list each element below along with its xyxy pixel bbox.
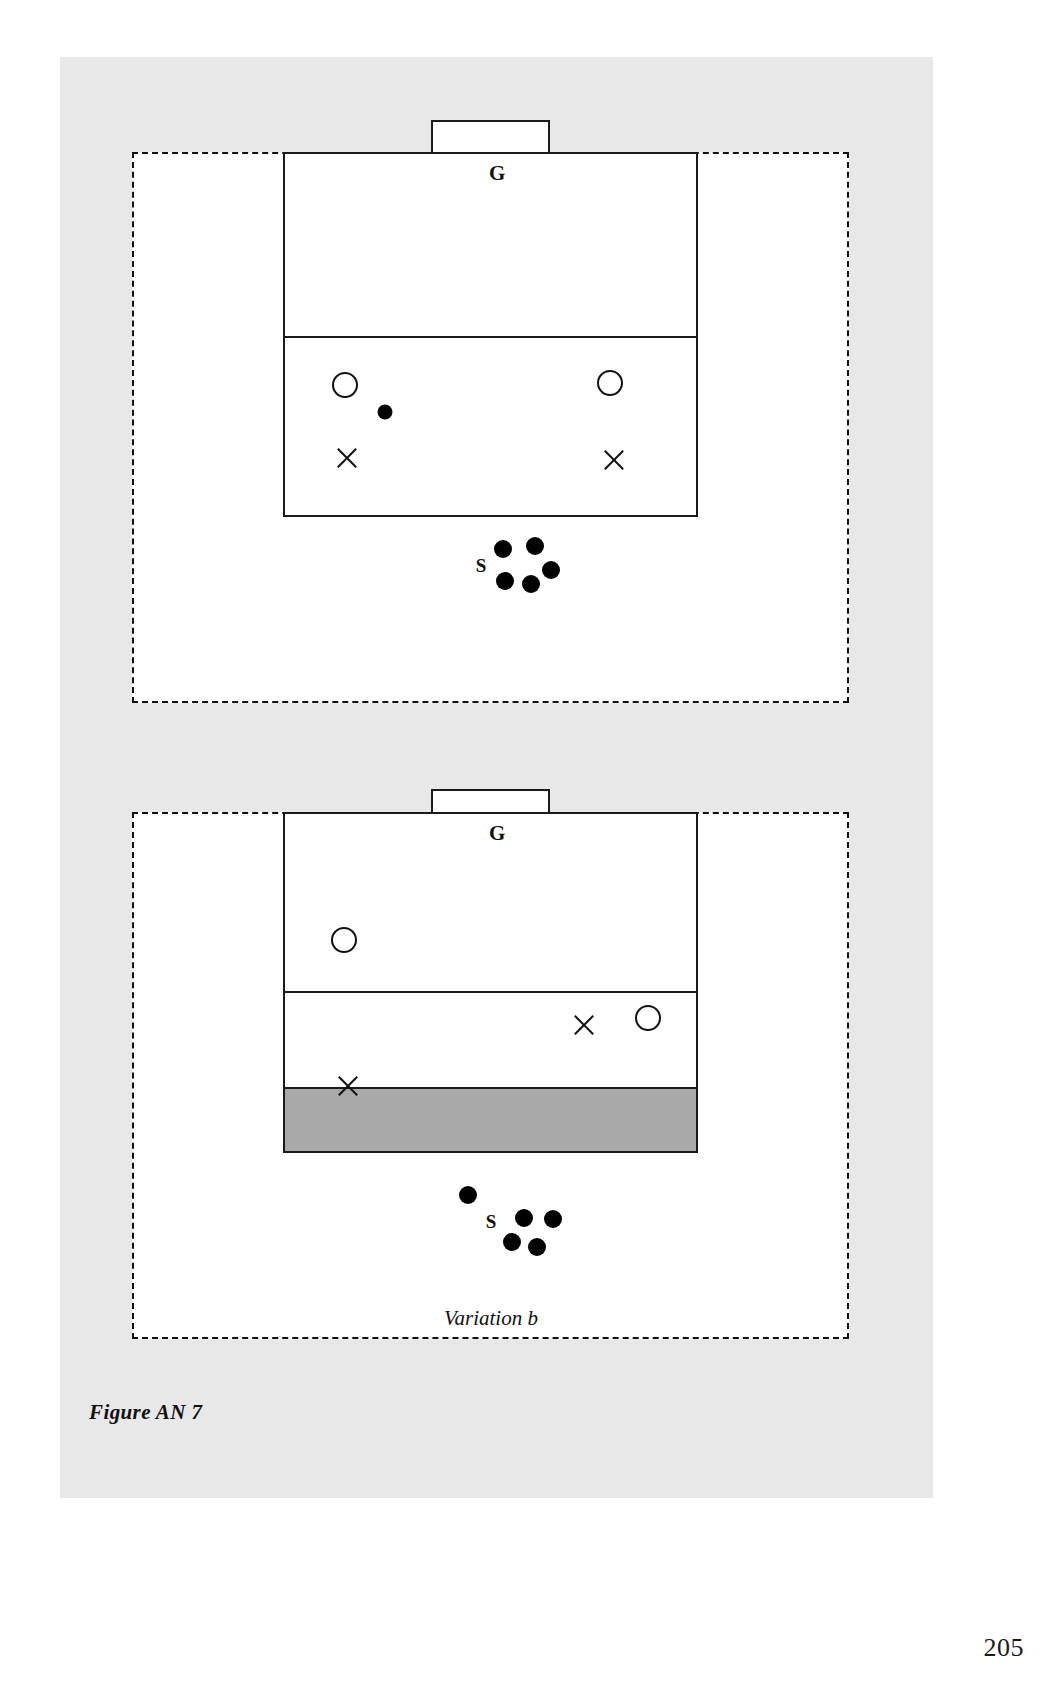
player-circle-left-a (332, 372, 358, 398)
player-x-middle-right-b (571, 1012, 597, 1038)
court-division-line-a (283, 336, 698, 338)
ball-pile-item (522, 575, 540, 593)
player-x-right-a (601, 447, 627, 473)
court-division-line-b (283, 991, 698, 993)
player-x-left-a (334, 445, 360, 471)
ball-pile-item (528, 1238, 546, 1256)
player-circle-upper-left-b (331, 927, 357, 953)
player-x-shaded-left-b (335, 1073, 361, 1099)
goal-label-b: G (489, 821, 505, 846)
ball-pile-item (542, 561, 560, 579)
ball-pile-item (494, 540, 512, 558)
figure-caption: Figure AN 7 (89, 1400, 202, 1425)
player-circle-middle-right-b (635, 1005, 661, 1031)
scanned-book-page: G S G S Variation b Fi (0, 0, 1054, 1685)
server-label-b: S (486, 1211, 497, 1233)
goal-mouth-a (431, 120, 550, 154)
ball-pile-item (459, 1186, 477, 1204)
goal-mouth-b (431, 789, 550, 814)
ball-pile-item (496, 572, 514, 590)
ball-pile-item (526, 537, 544, 555)
ball-in-play-a (378, 405, 393, 420)
ball-pile-item (544, 1210, 562, 1228)
player-circle-right-a (597, 370, 623, 396)
page-number: 205 (984, 1633, 1025, 1663)
server-label-a: S (476, 555, 487, 577)
ball-pile-item (515, 1209, 533, 1227)
goal-label-a: G (489, 161, 505, 186)
ball-pile-item (503, 1233, 521, 1251)
variation-caption-b: Variation b (444, 1306, 538, 1331)
